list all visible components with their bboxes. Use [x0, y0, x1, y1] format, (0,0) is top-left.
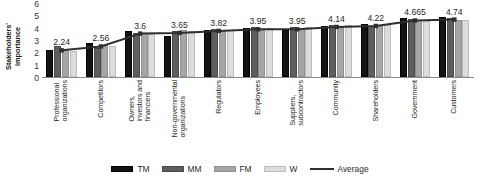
x-axis-label: Community: [317, 80, 356, 148]
bar-mm: [172, 31, 179, 77]
x-axis-label-text: Regulators: [215, 80, 223, 114]
legend-label: TM: [137, 165, 149, 174]
bar-value-label: 3.95: [289, 17, 306, 26]
bar-fm: [219, 31, 226, 77]
x-axis-labels: Professional organizationsCompetitorsOwn…: [42, 80, 474, 148]
bar-group: 4.665: [395, 4, 434, 77]
bar-tm: [164, 36, 171, 77]
bar-group: 3.65: [160, 4, 199, 77]
legend-item-line[interactable]: Average: [310, 165, 369, 174]
bar-tm: [243, 28, 250, 77]
legend-item-tm[interactable]: TM: [111, 165, 149, 174]
x-axis-label: Regulators: [199, 80, 238, 148]
bar-mm: [447, 18, 454, 77]
bar-value-label: 4.665: [404, 8, 426, 17]
bar-fm: [62, 50, 69, 77]
bar-fm: [298, 29, 305, 77]
legend-item-mm[interactable]: MM: [162, 165, 202, 174]
bar-mm: [329, 25, 336, 77]
bar-value-label: 2.56: [93, 34, 110, 43]
bar-mm: [54, 46, 61, 77]
bar-w: [148, 34, 155, 77]
x-axis-label: Suppliers, subcontractors: [278, 80, 317, 148]
bar-w: [345, 25, 352, 77]
x-axis-label: Non-governmental organizations: [160, 80, 199, 148]
bar-group: 4.74: [435, 4, 474, 77]
legend-item-w[interactable]: W: [264, 165, 298, 174]
bar-fm: [141, 33, 148, 77]
bar-group: 3.95: [278, 4, 317, 77]
bar-tm: [282, 30, 289, 77]
bar-value-label: 3.65: [171, 21, 188, 30]
bar-w: [423, 21, 430, 77]
bar-value-label: 2.24: [53, 38, 70, 47]
legend-swatch-icon: [264, 166, 286, 172]
x-axis-label-text: Employees: [254, 80, 262, 115]
bar-mm: [251, 27, 258, 77]
y-axis-title: Stakeholders' importance: [2, 6, 24, 86]
bar-w: [188, 31, 195, 77]
bar-groups: 2.242.563.63.653.823.953.954.144.224.665…: [42, 4, 474, 77]
legend-swatch-icon: [162, 166, 184, 172]
bar-mm: [290, 27, 297, 77]
bar-tm: [361, 24, 368, 77]
x-axis-label: Competitors: [81, 80, 120, 148]
bar-group: 3.95: [238, 4, 277, 77]
legend-label: W: [290, 165, 298, 174]
bar-value-label: 4.22: [367, 14, 384, 23]
y-axis-tick: 5: [34, 12, 39, 21]
bar-group: 4.22: [356, 4, 395, 77]
bar-tm: [125, 31, 132, 77]
bar-mm: [368, 26, 375, 77]
bar-fm: [180, 30, 187, 77]
bar-mm: [133, 33, 140, 77]
bar-tm: [321, 26, 328, 77]
y-axis-tick: 2: [34, 49, 39, 58]
x-axis-label-text: Community: [332, 80, 340, 115]
bar-fm: [101, 45, 108, 77]
x-axis-label-text: Competitors: [97, 80, 105, 118]
y-axis-tick: 3: [34, 37, 39, 46]
x-axis-label-text: Non-governmental organizations: [171, 80, 187, 138]
x-axis-label-text: Owners, investors and financiers: [128, 80, 153, 121]
bar-group: 4.14: [317, 4, 356, 77]
bar-fm: [455, 20, 462, 77]
bar-tm: [46, 50, 53, 77]
x-axis-label-text: Shareholders: [372, 80, 380, 122]
legend-swatch-icon: [111, 166, 133, 172]
legend-label: FM: [240, 165, 252, 174]
x-axis-label: Government: [395, 80, 434, 148]
plot-area: 2.242.563.63.653.823.953.954.144.224.665…: [42, 4, 474, 78]
x-axis-label: Shareholders: [356, 80, 395, 148]
bar-fm: [337, 27, 344, 77]
legend-item-fm[interactable]: FM: [214, 165, 252, 174]
bar-tm: [400, 18, 407, 77]
legend-swatch-icon: [310, 168, 334, 170]
bar-w: [462, 20, 469, 77]
bar-w: [266, 28, 273, 77]
bar-mm: [408, 19, 415, 77]
bar-mm: [211, 29, 218, 77]
x-axis-label: Customers: [435, 80, 474, 148]
bar-tm: [204, 30, 211, 77]
x-axis-label: Employees: [238, 80, 277, 148]
x-axis-label-text: Customers: [450, 80, 458, 114]
bar-w: [305, 27, 312, 77]
bar-value-label: 3.95: [250, 17, 267, 26]
bar-tm: [86, 43, 93, 77]
bar-w: [384, 25, 391, 77]
legend-label: Average: [338, 165, 369, 174]
y-axis-tick: 0: [34, 74, 39, 83]
y-axis-ticks: 6543210: [26, 4, 40, 78]
bar-value-label: 3.82: [210, 19, 227, 28]
x-axis-label-text: Suppliers, subcontractors: [289, 80, 305, 126]
bar-value-label: 3.6: [134, 22, 146, 31]
bar-group: 3.6: [121, 4, 160, 77]
x-axis-line: [42, 77, 474, 78]
legend-swatch-icon: [214, 166, 236, 172]
x-axis-label-text: Professional organizations: [53, 80, 69, 121]
stakeholder-importance-chart: Stakeholders' importance 6543210 2.242.5…: [0, 0, 480, 184]
y-axis-tick: 4: [34, 24, 39, 33]
bar-w: [70, 51, 77, 77]
bar-group: 3.82: [199, 4, 238, 77]
